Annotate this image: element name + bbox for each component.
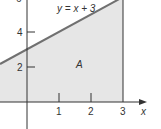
y-tick-label-4: 4 bbox=[17, 27, 23, 38]
shaded-region-a bbox=[0, 0, 123, 102]
function-label: y = x + 3 bbox=[56, 3, 96, 14]
y-tick-label-2: 2 bbox=[17, 62, 23, 73]
x-axis-label: x bbox=[140, 106, 147, 117]
x-tick-label-3: 3 bbox=[120, 106, 126, 117]
y-tick-label-6: 6 bbox=[16, 0, 22, 4]
x-tick-label-2: 2 bbox=[88, 106, 94, 117]
area-under-line-chart: 1 2 3 x 6 4 2 y = x + 3 A bbox=[0, 0, 161, 129]
x-tick-label-1: 1 bbox=[56, 106, 62, 117]
region-label: A bbox=[75, 59, 83, 70]
x-axis-arrow-icon bbox=[139, 99, 147, 105]
